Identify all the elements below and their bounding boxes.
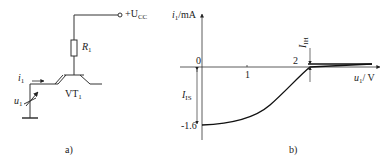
iis-label: IIS: [182, 90, 192, 102]
iih-label: IIH: [298, 37, 310, 48]
x-tick-1: 1: [245, 70, 250, 80]
diagram-canvas: [0, 0, 391, 163]
supply-label: +UCC: [125, 9, 147, 21]
origin-label: 0: [196, 56, 201, 66]
input-current-label: i1: [18, 73, 24, 85]
circuit-caption: a): [65, 145, 73, 155]
resistor-r1: [71, 40, 77, 56]
transistor-collector: [80, 75, 90, 84]
supply-terminal: [118, 13, 122, 17]
transfer-chart: [180, 14, 380, 140]
x-tick-2: 2: [293, 56, 298, 66]
input-voltage-label: u1: [14, 96, 23, 108]
chart-caption: b): [289, 145, 297, 155]
circuit-schematic: [22, 13, 122, 118]
y-axis-label: i1/mA: [172, 10, 196, 22]
resistor-label: R1: [82, 42, 92, 54]
x-axis-label: u1/ V: [354, 73, 375, 85]
characteristic-curve: [202, 64, 372, 125]
transistor-label: VT1: [65, 89, 82, 101]
y-tick-min: -1.6: [181, 121, 197, 131]
